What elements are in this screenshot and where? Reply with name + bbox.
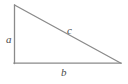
label-side-c: c	[67, 25, 72, 36]
label-side-b: b	[61, 67, 67, 78]
right-triangle-figure: a c b	[0, 0, 128, 84]
label-side-a: a	[6, 34, 12, 45]
